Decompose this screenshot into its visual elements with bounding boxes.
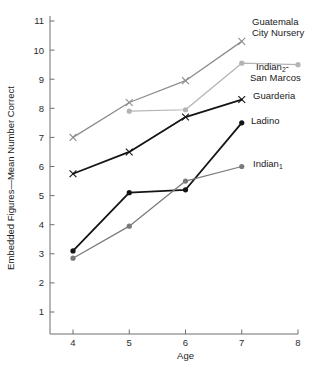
y-tick-label: 1 (39, 306, 44, 317)
y-tick-label: 4 (39, 219, 44, 230)
series-line-ladino (73, 123, 242, 251)
data-point (183, 107, 188, 112)
y-tick-label: 3 (39, 248, 44, 259)
data-point (295, 62, 300, 67)
y-tick-label: 5 (39, 190, 44, 201)
y-tick-label: 6 (39, 161, 44, 172)
data-point (127, 224, 132, 229)
y-tick-label: 7 (39, 132, 44, 143)
series-label-guatemala-line2: City Nursery (252, 27, 305, 38)
data-point (70, 248, 75, 253)
y-tick-label: 8 (39, 103, 44, 114)
x-tick-label: 7 (239, 337, 244, 348)
data-point (183, 178, 188, 183)
series-line-indian1 (73, 167, 242, 259)
data-point (239, 120, 244, 125)
data-point (127, 190, 132, 195)
data-point (127, 109, 132, 114)
y-tick-label: 11 (34, 15, 44, 26)
x-axis-title: Age (177, 350, 194, 361)
data-point (70, 256, 75, 261)
y-axis-title: Embedded Figures—Mean Number Correct (5, 86, 16, 270)
line-chart: 1234567891011 45678 GuatemalaCity Nurser… (0, 0, 322, 373)
y-tick-label: 2 (39, 277, 44, 288)
chart-container: 1234567891011 45678 GuatemalaCity Nurser… (0, 0, 322, 373)
x-tick-label: 6 (183, 337, 188, 348)
series-line-guatemala-city-nursery (73, 41, 242, 137)
series-label-guatemala-line1: Guatemala (252, 16, 299, 27)
data-point (239, 164, 244, 169)
x-tick-label: 4 (70, 337, 75, 348)
series-annotations: GuatemalaCity NurseryIndian2-San MarcosG… (250, 16, 305, 170)
series-label-ladino: Ladino (251, 115, 280, 126)
x-tick-label: 8 (295, 337, 300, 348)
y-tick-label: 9 (39, 74, 44, 85)
series-label-indian2-line2: San Marcos (250, 72, 301, 83)
y-axis: 1234567891011 (33, 15, 54, 334)
data-point (239, 61, 244, 66)
series-label-guarderia: Guarderia (253, 90, 296, 101)
series-label-indian1: Indian1 (253, 158, 283, 170)
y-tick-label: 10 (33, 45, 44, 56)
x-tick-label: 5 (127, 337, 132, 348)
data-point (183, 187, 188, 192)
x-axis: 45678 (50, 330, 301, 349)
